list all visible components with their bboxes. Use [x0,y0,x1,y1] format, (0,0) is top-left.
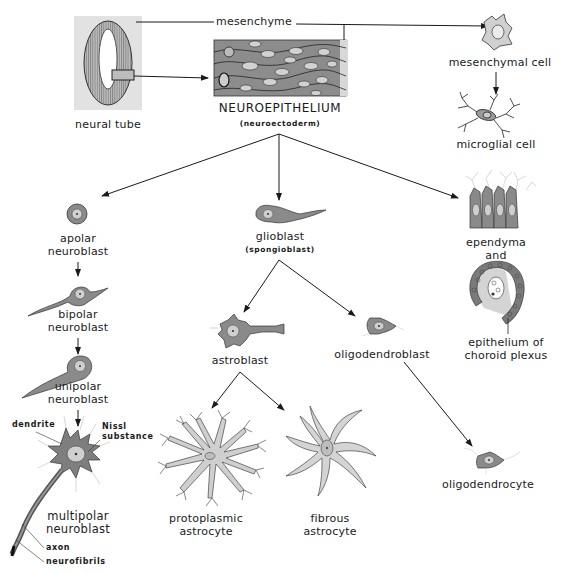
mesenchymal-cell-figure [482,14,512,50]
arrow-glioblast-to-astroblast [244,260,279,312]
microglial-cell-label: microglial cell [456,138,535,151]
arrow-tube-to-neuroepithelium [134,76,208,78]
neuroepithelium-label: NEUROEPITHELIUM [219,102,341,115]
neuroectoderm-sublabel: (neuroectoderm) [240,119,321,129]
apolar-line1: apolar [48,232,109,245]
ependyma-line2: and [466,249,526,262]
nissl-substance-annotation: Nissl substance [102,422,153,442]
unipolar-neuroblast-label: unipolar neuroblast [48,380,109,406]
glioblast-figure [256,205,326,223]
microglial-cell-figure [458,92,520,138]
bipolar-line2: neuroblast [48,321,109,334]
glioblast-label: glioblast [256,230,304,243]
multipolar-neuroblast-label: multipolar neuroblast [46,510,110,536]
spongioblast-sublabel: (spongioblast) [245,245,315,255]
oligodendroblast-figure [362,318,404,336]
ependyma-label: ependyma and [466,236,526,262]
bipolar-line1: bipolar [48,308,109,321]
unipolar-line2: neuroblast [48,393,109,406]
choroid-plexus-label: epithelium of choroid plexus [465,336,548,362]
protoplasmic-line2: astrocyte [169,525,243,538]
astroblast-label: astroblast [212,354,269,367]
unipolar-line1: unipolar [48,380,109,393]
neuroepithelium-figure [214,40,348,96]
mesenchyme-label: mesenchyme [214,15,294,28]
neuroepithelium-branch-arrows [102,134,458,200]
bipolar-neuroblast-label: bipolar neuroblast [48,308,109,334]
mesenchymal-cell-label: mesenchymal cell [449,56,552,69]
fibrous-line1: fibrous [303,512,356,525]
apolar-neuroblast-label: apolar neuroblast [48,232,109,258]
nissl-line1: Nissl [102,422,153,432]
choroid-line1: epithelium of [465,336,548,349]
dendrite-annotation: dendrite [12,420,55,430]
neural-tube-figure [74,16,142,110]
fibrous-line2: astrocyte [303,525,356,538]
arrow-glioblast-to-oligodendroblast [279,260,355,316]
neurofibrils-annotation: neurofibrils [46,557,106,567]
choroid-line2: choroid plexus [465,349,548,362]
ependyma-figure [466,170,536,228]
oligodendrocyte-figure [464,448,520,474]
arrow-oligodendroblast-to-oligodendrocyte [404,362,472,446]
arrow-astroblast-to-protoplasmic [212,372,240,408]
neural-tube-label: neural tube [75,118,141,131]
nissl-line2: substance [102,432,153,442]
ependyma-line1: ependyma [466,236,526,249]
choroid-plexus-figure [470,261,524,334]
protoplasmic-astrocyte-label: protoplasmic astrocyte [169,512,243,538]
axon-annotation: axon [46,543,70,553]
protoplasmic-astrocyte-figure [158,410,266,506]
oligodendrocyte-label: oligodendrocyte [442,478,534,491]
oligodendroblast-label: oligodendroblast [334,348,429,361]
protoplasmic-line1: protoplasmic [169,512,243,525]
multipolar-neuroblast-figure [12,416,110,562]
apolar-neuroblast-figure [67,204,87,224]
apolar-line2: neuroblast [48,245,109,258]
fibrous-astrocyte-figure [286,406,376,496]
fibrous-astrocyte-label: fibrous astrocyte [303,512,356,538]
arrow-astroblast-to-fibrous [240,372,284,410]
astroblast-figure [210,314,284,348]
histogenesis-diagram: mesenchyme neural tube NEUROEPITHELIUM (… [0,0,561,574]
multipolar-line2: neuroblast [46,523,110,536]
